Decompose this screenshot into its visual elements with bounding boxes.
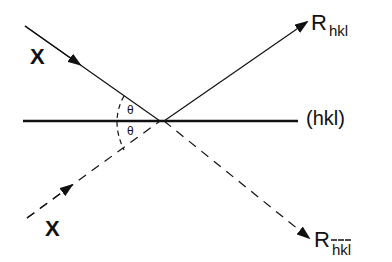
reflected-ray-bottom [164, 121, 309, 238]
reflected-label-bottom-main: R [314, 227, 330, 252]
theta-label-bottom: θ [127, 124, 134, 138]
incident-label-top: X [30, 44, 45, 70]
plane-label: (hkl) [306, 107, 345, 130]
reflected-label-top-sub: hkl [329, 22, 348, 39]
reflected-label-bottom: Rhkl [314, 227, 351, 253]
reflected-label-bottom-sub: hkl [332, 241, 351, 258]
incident-label-bottom: X [45, 216, 60, 242]
reflected-label-top: Rhkl [311, 10, 348, 36]
theta-arc [117, 96, 124, 150]
theta-label-top: θ [127, 103, 134, 117]
incident-arrow-bottom [27, 185, 72, 218]
reflected-ray-top [164, 22, 307, 121]
reflected-label-top-main: R [311, 10, 327, 35]
